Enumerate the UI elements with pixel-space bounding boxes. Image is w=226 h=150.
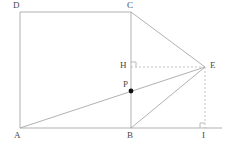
right-angle-layer (131, 62, 205, 128)
point-layer (129, 89, 134, 94)
vertex-label-d: D (13, 1, 20, 10)
vertex-label-p: P (123, 80, 128, 89)
diagram-canvas (0, 0, 226, 150)
vertex-label-e: E (210, 61, 216, 70)
right-angle-at-I (200, 123, 205, 128)
segment-layer (20, 12, 222, 128)
point-p (129, 89, 134, 94)
segment-BE (131, 67, 205, 128)
vertex-label-a: A (14, 131, 21, 140)
segment-CE (131, 12, 205, 67)
vertex-label-i: I (202, 131, 205, 140)
geometry-diagram: ABCDEHIP (0, 0, 226, 150)
right-angle-at-H (131, 62, 136, 67)
vertex-label-c: C (127, 1, 133, 10)
segment-AE (20, 67, 205, 128)
vertex-label-h: H (120, 61, 127, 70)
vertex-label-b: B (127, 131, 133, 140)
